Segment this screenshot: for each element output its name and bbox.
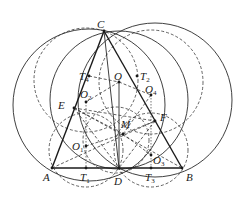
label-F: F bbox=[159, 111, 167, 123]
label-O3: O3 bbox=[153, 154, 165, 168]
label-O2: O2 bbox=[80, 88, 92, 102]
point-D bbox=[118, 167, 121, 170]
point-T3 bbox=[150, 167, 153, 170]
point-M bbox=[122, 133, 125, 136]
label-D: D bbox=[113, 175, 122, 187]
point-B bbox=[181, 167, 184, 170]
label-T1: T1 bbox=[80, 171, 90, 185]
point-F bbox=[154, 120, 157, 123]
label-O: O bbox=[114, 70, 122, 82]
point-T1 bbox=[85, 167, 88, 170]
point-O3 bbox=[150, 154, 153, 157]
label-T4: T4 bbox=[79, 70, 89, 84]
label-A: A bbox=[42, 171, 50, 183]
label-O4: O4 bbox=[145, 83, 157, 97]
point-O1 bbox=[85, 145, 88, 148]
label-M: M bbox=[120, 118, 131, 130]
label-T2: T2 bbox=[140, 70, 150, 84]
segment-ED bbox=[74, 108, 119, 168]
circle-O4 bbox=[99, 30, 203, 134]
label-B: B bbox=[186, 171, 193, 183]
point-C bbox=[103, 30, 106, 33]
point-E bbox=[73, 107, 76, 110]
label-T3: T3 bbox=[145, 171, 155, 185]
segment-CD bbox=[104, 31, 119, 168]
geometry-diagram: CABDEFMOO1O2O3O4T1T2T3T4 bbox=[0, 0, 241, 203]
label-E: E bbox=[57, 99, 65, 111]
label-O1: O1 bbox=[72, 140, 84, 154]
point-T2 bbox=[136, 75, 139, 78]
circumcircle-ACD bbox=[13, 29, 165, 181]
point-A bbox=[51, 167, 54, 170]
label-C: C bbox=[97, 18, 105, 30]
